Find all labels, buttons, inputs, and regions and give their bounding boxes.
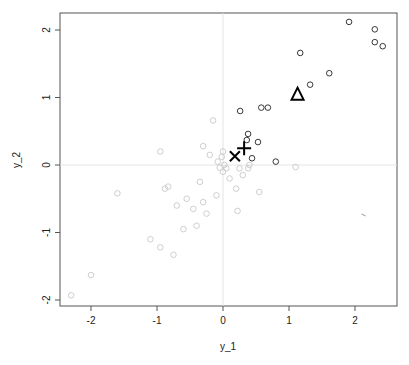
data-point: [326, 70, 332, 76]
reference-lines: [60, 13, 397, 306]
y-tick-label: 2: [41, 27, 52, 33]
data-point: [214, 193, 220, 199]
data-point: [237, 108, 243, 114]
x-tick-label: -2: [87, 315, 96, 326]
data-point: [171, 252, 177, 258]
data-point: [200, 199, 206, 205]
y-tick-label: -1: [41, 228, 52, 237]
stray-mark: [362, 214, 366, 216]
plot-border: [60, 13, 397, 306]
x-tick-label: -1: [153, 315, 162, 326]
data-point: [148, 236, 154, 242]
data-point: [273, 159, 279, 165]
data-point: [346, 19, 352, 25]
data-point: [181, 226, 187, 232]
data-point: [219, 154, 225, 160]
data-point: [240, 172, 246, 178]
data-point: [233, 186, 239, 192]
data-point: [191, 206, 197, 212]
data-point: [215, 159, 221, 165]
data-point: [372, 27, 378, 33]
x-tick-label: 2: [352, 315, 358, 326]
data-point: [200, 143, 206, 149]
x-axis: -2-1012: [87, 306, 359, 326]
data-point: [194, 223, 200, 229]
x-tick-label: 0: [220, 315, 226, 326]
x-axis-title: y_1: [220, 341, 237, 352]
data-point: [227, 176, 233, 182]
data-point: [265, 105, 271, 111]
data-point: [115, 191, 121, 197]
data-point: [237, 166, 243, 172]
data-point: [174, 203, 180, 209]
data-point: [258, 105, 264, 111]
y-tick-label: -2: [41, 295, 52, 304]
data-point: [68, 292, 74, 298]
y-axis: -2-1012: [41, 27, 60, 305]
y-tick-label: 0: [41, 162, 52, 168]
data-point: [207, 152, 213, 158]
data-points: [68, 19, 385, 298]
data-point: [380, 43, 386, 49]
data-point: [197, 179, 203, 185]
scatter-plot: -2-1012 -2-1012 y_1 y_2: [0, 0, 409, 365]
data-point: [184, 196, 190, 202]
data-point: [210, 118, 216, 124]
data-point: [372, 39, 378, 45]
x-marker: [230, 151, 240, 161]
data-point: [245, 166, 251, 172]
data-point: [257, 189, 263, 195]
data-point: [158, 245, 164, 251]
data-point: [255, 139, 261, 145]
data-point: [245, 131, 251, 137]
y-axis-title: y_2: [11, 152, 22, 169]
data-point: [88, 272, 94, 278]
data-point: [204, 211, 210, 217]
data-point: [158, 149, 164, 155]
data-point: [297, 50, 303, 56]
plot-frame: [60, 13, 397, 306]
y-tick-label: 1: [41, 94, 52, 100]
data-point: [235, 208, 241, 214]
triangle-marker: [292, 88, 304, 100]
data-point: [249, 155, 255, 161]
data-point: [307, 82, 313, 88]
x-tick-label: 1: [286, 315, 292, 326]
